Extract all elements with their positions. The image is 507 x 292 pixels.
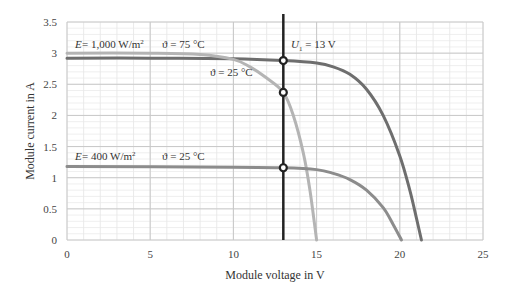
y-tick-label: 3.5 xyxy=(43,16,57,28)
y-tick-label: 1 xyxy=(52,172,58,184)
annotation-theta25-bottom: ϑ = 25 °C xyxy=(162,150,205,162)
e1000-text: = 1,000 W/m2 xyxy=(82,38,144,50)
annotation-theta75: ϑ = 75 °C xyxy=(162,38,205,50)
x-axis-ticks: 0510152025 xyxy=(64,248,489,260)
x-tick-label: 0 xyxy=(64,248,70,260)
e-symbol-400: E xyxy=(74,150,82,162)
y-tick-label: 1.5 xyxy=(43,141,57,153)
major-gridlines xyxy=(67,22,483,240)
y-axis-label: Module current in A xyxy=(23,82,37,180)
x-axis-label: Module voltage in V xyxy=(225,268,325,282)
x-tick-label: 15 xyxy=(311,248,323,260)
y-tick-label: 0.5 xyxy=(43,203,57,215)
u1-text: U1 = 13 V xyxy=(291,38,336,53)
minor-gridlines xyxy=(67,22,483,240)
annotation-theta25-top: ϑ = 25 °C xyxy=(210,66,253,78)
y-tick-label: 2.5 xyxy=(43,78,57,90)
e-symbol: E xyxy=(74,38,82,50)
y-tick-label: 3 xyxy=(52,47,58,59)
intersection-marker xyxy=(280,164,287,171)
x-tick-label: 25 xyxy=(478,248,490,260)
intersection-marker xyxy=(280,57,287,64)
annotation-e1000: E = 1,000 W/m2 xyxy=(74,38,144,50)
y-tick-label: 0 xyxy=(52,234,58,246)
x-tick-label: 20 xyxy=(394,248,406,260)
intersection-marker xyxy=(280,89,287,96)
annotation-u1: U1 = 13 V xyxy=(291,38,336,53)
e400-text: = 400 W/m2 xyxy=(82,150,136,162)
iv-curve-chart: 00.511.522.533.5 0510152025 Module volta… xyxy=(0,0,507,292)
annotation-e400: E = 400 W/m2 xyxy=(74,150,136,162)
x-tick-label: 5 xyxy=(147,248,153,260)
y-tick-label: 2 xyxy=(52,109,58,121)
y-axis-ticks: 00.511.522.533.5 xyxy=(43,16,57,246)
x-tick-label: 10 xyxy=(228,248,240,260)
